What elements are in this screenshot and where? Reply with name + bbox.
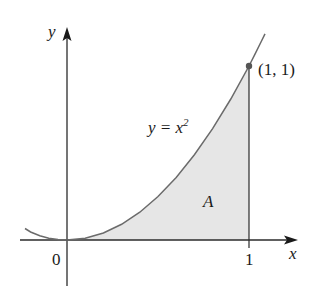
point-1-1-marker	[246, 63, 252, 69]
shaded-region-a	[67, 66, 249, 240]
area-under-parabola-figure: y x 0 1 (1, 1) y = x2 A	[0, 0, 320, 300]
curve-equation-base: y = x	[148, 118, 183, 137]
curve-equation-label: y = x2	[148, 117, 189, 136]
point-label: (1, 1)	[258, 61, 295, 78]
origin-label: 0	[52, 251, 61, 268]
curve-equation-exponent: 2	[183, 116, 189, 128]
y-axis-label: y	[48, 23, 56, 40]
x-axis-label: x	[289, 245, 297, 262]
x-tick-label-1: 1	[245, 251, 254, 268]
region-a-label: A	[203, 193, 213, 210]
plot-graphic	[0, 0, 320, 300]
